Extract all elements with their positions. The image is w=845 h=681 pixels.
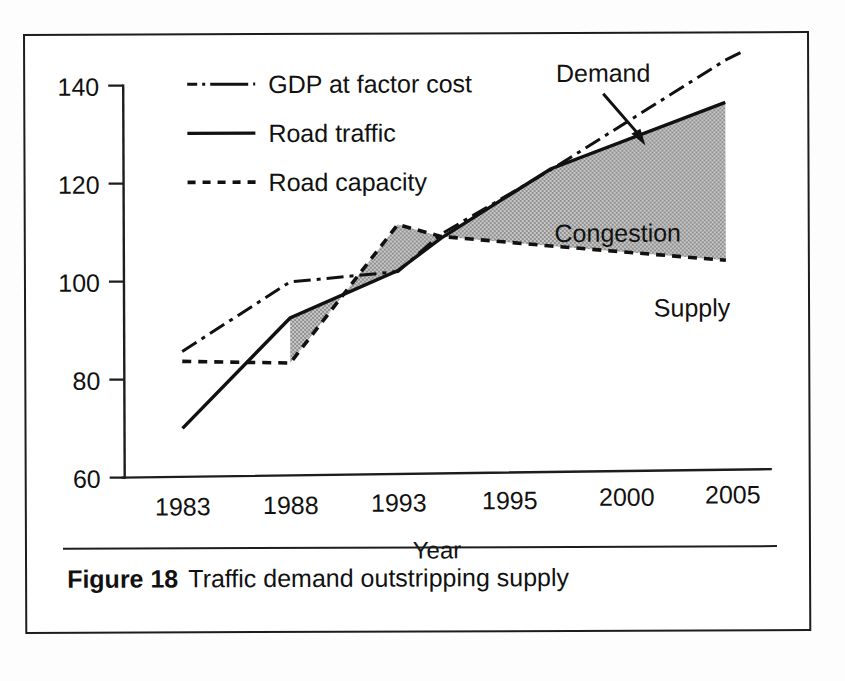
y-tick-label-80: 80 bbox=[72, 367, 100, 395]
annotation-label-congestion: Congestion bbox=[554, 218, 681, 246]
x-tick-label-1988: 1988 bbox=[263, 491, 319, 519]
x-tick-label-2005: 2005 bbox=[705, 480, 761, 508]
figure-caption-text: Traffic demand outstripping supply bbox=[188, 563, 569, 592]
annotation-label-demand: Demand bbox=[556, 59, 651, 87]
figure-caption: Figure 18Traffic demand outstripping sup… bbox=[67, 561, 767, 595]
x-axis-title: Year bbox=[413, 536, 462, 563]
y-tick-label-140: 140 bbox=[57, 73, 99, 101]
x-tick-label-1983: 1983 bbox=[155, 492, 211, 520]
y-tick-label-100: 100 bbox=[58, 269, 100, 297]
y-tick-label-120: 120 bbox=[58, 171, 100, 199]
x-tick-label-2000: 2000 bbox=[599, 483, 655, 511]
y-tick-label-60: 60 bbox=[73, 465, 101, 493]
legend-label-road-traffic: Road traffic bbox=[268, 119, 395, 147]
figure-frame: 140 120 100 80 60 1983 1988 1993 1995 20… bbox=[23, 31, 811, 634]
annotation-label-supply: Supply bbox=[654, 293, 731, 321]
legend-label-gdp-at-factor-cost: GDP at factor cost bbox=[268, 69, 472, 98]
annotation-demand: Demand bbox=[556, 59, 651, 146]
x-tick-label-1995: 1995 bbox=[482, 486, 538, 514]
figure-root: 140 120 100 80 60 1983 1988 1993 1995 20… bbox=[0, 0, 845, 681]
x-axis-line bbox=[123, 469, 771, 477]
figure-caption-number: Figure 18 bbox=[67, 564, 178, 592]
x-tick-label-1993: 1993 bbox=[371, 488, 427, 516]
legend-label-road-capacity: Road capacity bbox=[269, 167, 428, 196]
legend: GDP at factor cost Road traffic Road cap… bbox=[187, 69, 472, 196]
